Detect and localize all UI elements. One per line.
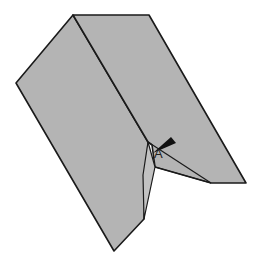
- origami-diagram: [0, 0, 256, 262]
- label-a: A: [154, 146, 163, 161]
